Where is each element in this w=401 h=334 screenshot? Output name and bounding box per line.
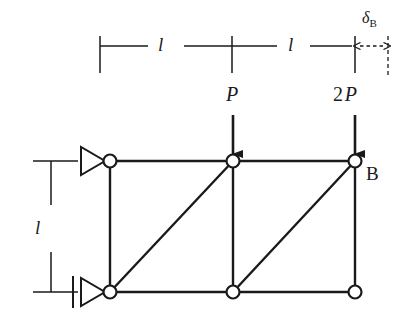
node-bottom-right: [349, 286, 362, 299]
load-2p-magnitude: 2: [333, 83, 343, 105]
support-roller-top-left-icon: [81, 147, 105, 175]
load-label-2p: 2 P: [333, 84, 357, 104]
member-diagonal-right: [233, 161, 355, 292]
load-p-symbol: P: [226, 83, 238, 105]
deflection-subscript: B: [369, 17, 376, 29]
truss-members-group: [110, 161, 355, 292]
node-bottom-left: [104, 286, 117, 299]
deflection-indicator-group: [360, 36, 388, 76]
member-diagonal-left: [110, 161, 233, 292]
supports-group: [73, 147, 105, 308]
node-bottom-middle: [227, 286, 240, 299]
deflection-label: δB: [362, 10, 377, 29]
load-label-p: P: [226, 84, 238, 104]
node-label-b: B: [366, 164, 379, 183]
node-top-left: [104, 155, 117, 168]
load-2p-symbol: P: [345, 83, 357, 105]
dimension-label-vertical: l: [35, 218, 40, 237]
truss-diagram: l l l δB P 2 P B: [0, 0, 401, 334]
dimension-label-horizontal-right: l: [288, 35, 293, 54]
truss-diagram-canvas: [0, 0, 401, 334]
horizontal-dimension-group: [100, 36, 355, 73]
node-top-middle: [227, 155, 240, 168]
node-top-right: [349, 155, 362, 168]
load-arrows-group: [233, 115, 355, 154]
support-pin-bottom-left-icon: [81, 278, 105, 306]
dimension-label-horizontal-left: l: [158, 35, 163, 54]
